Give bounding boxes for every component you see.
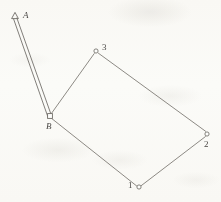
traverse-leg-2-1 bbox=[141, 137, 205, 186]
traverse-network-drawing bbox=[0, 0, 221, 202]
baseline-a-b-rail-left bbox=[14, 19, 48, 117]
baseline-a-b bbox=[14, 18, 52, 117]
traverse-leg-3-2 bbox=[98, 53, 205, 131]
traverse-diagram-figure: 一 基 于 方 向 的 导 线 平 差 计 算 方 法 精 度 分 析 与 A … bbox=[0, 0, 221, 202]
traverse-leg-1-b bbox=[52, 119, 137, 186]
traverse-leg-b-3 bbox=[52, 54, 95, 114]
traverse-point-marker-1 bbox=[137, 185, 141, 189]
point-markers bbox=[12, 12, 209, 189]
baseline-a-b-rail-right bbox=[17, 18, 52, 116]
traverse-legs bbox=[52, 53, 206, 186]
traverse-point-marker-2 bbox=[205, 132, 209, 136]
traverse-point-marker-3 bbox=[94, 49, 98, 53]
triangulation-station-marker bbox=[12, 12, 19, 18]
control-point-marker bbox=[48, 114, 53, 119]
